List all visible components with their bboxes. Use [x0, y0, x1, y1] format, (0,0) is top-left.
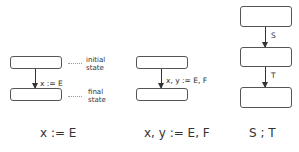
- edge-label-t: T: [271, 72, 276, 80]
- edge-label-s: S: [271, 32, 276, 40]
- transition-arrow: [35, 69, 36, 88]
- final-state-box: [136, 88, 188, 101]
- caption: x, y := E, F: [144, 127, 210, 139]
- edge-label: x := E: [40, 80, 63, 88]
- initial-state-box: [136, 56, 188, 69]
- initial-state-box: [10, 56, 62, 69]
- caption: S ; T: [249, 127, 276, 139]
- final-state-annotation: final state: [88, 88, 106, 104]
- final-state-leader: [68, 96, 82, 97]
- caption: x := E: [40, 127, 76, 139]
- transition-arrow: [161, 69, 162, 88]
- state-box-3: [240, 87, 292, 108]
- edge-label: x, y := E, F: [166, 77, 207, 85]
- initial-state-leader: [68, 63, 82, 64]
- final-state-box: [10, 88, 62, 101]
- transition-arrow-s: [265, 27, 266, 47]
- initial-state-annotation: initial state: [86, 56, 105, 72]
- transition-arrow-t: [265, 67, 266, 87]
- state-box-2: [240, 47, 292, 67]
- state-box-1: [240, 6, 292, 27]
